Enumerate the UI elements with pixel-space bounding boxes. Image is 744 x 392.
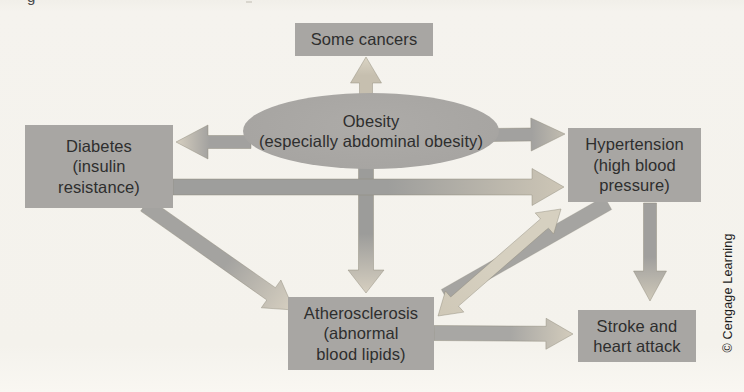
edge-atherosclerosis-to-stroke xyxy=(434,318,573,349)
node-obesity-title: Obesity xyxy=(343,111,400,131)
node-diabetes-sub2: resistance) xyxy=(58,177,140,197)
node-stroke-heart-attack: Stroke and heart attack xyxy=(578,310,696,362)
node-hypertension-title: Hypertension xyxy=(585,134,683,154)
node-stroke-line2: heart attack xyxy=(593,336,680,356)
node-diabetes: Diabetes (insulin resistance) xyxy=(25,125,173,208)
node-atherosclerosis-sub2: blood lipids) xyxy=(316,344,405,364)
edge-hypertension-to-stroke xyxy=(634,203,667,301)
node-obesity-subtitle: (especially abdominal obesity) xyxy=(259,131,483,151)
edge-obesity-to-hypertension xyxy=(491,118,565,151)
edge-diabetes-to-atherosclerosis xyxy=(141,199,294,310)
node-atherosclerosis: Atherosclerosis (abnormal blood lipids) xyxy=(288,297,434,370)
node-atherosclerosis-sub1: (abnormal xyxy=(323,323,398,343)
node-hypertension-sub1: (high blood xyxy=(593,155,676,175)
node-hypertension: Hypertension (high blood pressure) xyxy=(568,128,701,202)
cropped-caption-mark xyxy=(246,1,252,3)
node-atherosclerosis-title: Atherosclerosis xyxy=(304,303,418,323)
edge-atherosclerosis-hypertension-double-arrow xyxy=(438,209,561,316)
node-some-cancers-label: Some cancers xyxy=(311,29,418,49)
copyright-credit: © Cengage Learning xyxy=(721,218,739,368)
figure-canvas: g Some cancers Obesity (especially abdom… xyxy=(0,0,744,392)
node-diabetes-title: Diabetes xyxy=(66,136,132,156)
node-hypertension-sub2: pressure) xyxy=(599,175,670,195)
edge-obesity-to-diabetes xyxy=(176,125,251,159)
node-some-cancers: Some cancers xyxy=(295,23,433,56)
node-diabetes-sub1: (insulin xyxy=(72,156,125,176)
cropped-caption-fragment: g xyxy=(27,0,57,5)
node-obesity: Obesity (especially abdominal obesity) xyxy=(243,93,499,169)
edge-obesity-to-some-cancers xyxy=(351,57,382,98)
node-stroke-line1: Stroke and xyxy=(597,316,678,336)
